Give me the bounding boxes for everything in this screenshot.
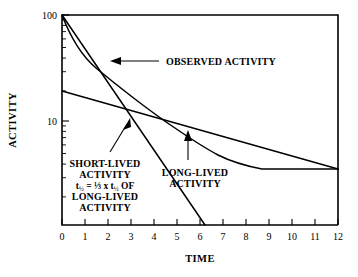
x-axis-label-11: 11 <box>310 231 320 242</box>
x-axis-label-1: 1 <box>83 231 88 242</box>
x-axis-label-2: 2 <box>106 231 111 242</box>
chart-page: 100 10 ACTIVITY 0 1 2 3 4 5 6 7 8 9 10 1… <box>0 0 358 277</box>
formula-fraction-third: ⅓ <box>94 181 101 191</box>
long-lived-activity-label-line2: ACTIVITY <box>169 178 221 189</box>
formula-times-t: x t <box>101 181 115 191</box>
y-axis-label-100: 100 <box>42 10 57 21</box>
x-axis-label-5: 5 <box>175 231 180 242</box>
x-axis-label-10: 10 <box>287 231 297 242</box>
x-axis-title: TIME <box>185 253 215 264</box>
formula-equals: = <box>84 181 94 191</box>
y-axis-label-10: 10 <box>47 116 57 127</box>
decay-curve-chart: 100 10 ACTIVITY 0 1 2 3 4 5 6 7 8 9 10 1… <box>0 0 358 277</box>
long-lived-activity-label-line1: LONG-LIVED <box>162 167 228 178</box>
formula-of: OF <box>119 181 135 191</box>
short-lived-activity-label-line4: LONG-LIVED <box>72 191 138 202</box>
series-observed-activity <box>62 15 338 169</box>
x-axis-label-6: 6 <box>198 231 203 242</box>
short-lived-activity-label-line5: ACTIVITY <box>79 202 131 213</box>
short-lived-activity-label-line2: ACTIVITY <box>79 169 131 180</box>
x-axis-label-4: 4 <box>152 231 157 242</box>
x-axis-label-3: 3 <box>129 231 134 242</box>
x-axis-label-12: 12 <box>333 231 343 242</box>
x-axis-label-8: 8 <box>244 231 249 242</box>
short-lived-activity-arrow-icon <box>123 118 131 130</box>
x-axis-label-0: 0 <box>60 231 65 242</box>
short-lived-activity-label-line1: SHORT-LIVED <box>70 158 141 169</box>
x-axis-label-7: 7 <box>221 231 226 242</box>
x-axis-label-9: 9 <box>267 231 272 242</box>
observed-activity-arrow-icon <box>110 57 121 65</box>
observed-activity-label: OBSERVED ACTIVITY <box>166 56 277 67</box>
y-axis-title: ACTIVITY <box>7 92 18 148</box>
